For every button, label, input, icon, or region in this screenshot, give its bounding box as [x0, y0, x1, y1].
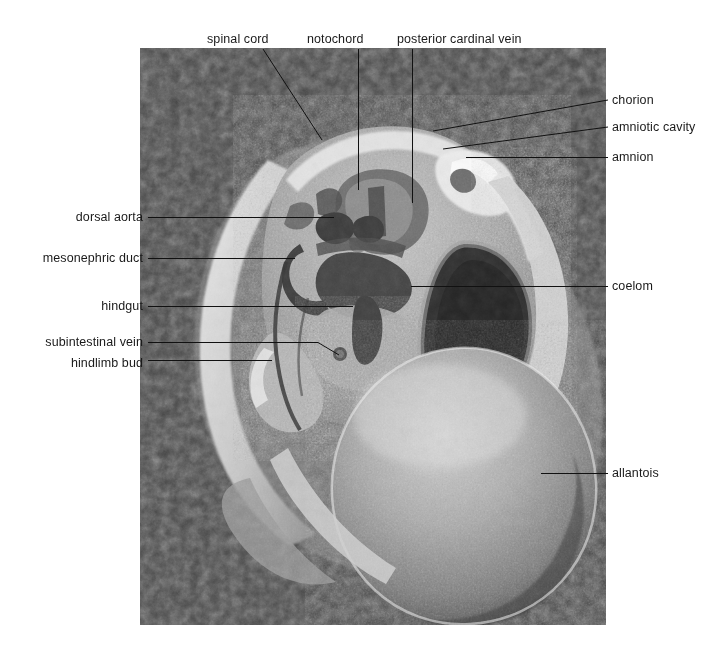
label-amnion: amnion	[612, 151, 654, 164]
label-allantois: allantois	[612, 467, 659, 480]
label-coelom: coelom	[612, 280, 653, 293]
label-hindlimb-bud: hindlimb bud	[71, 357, 143, 370]
figure-container: spinal cord notochord posterior cardinal…	[0, 0, 726, 646]
label-notochord: notochord	[307, 33, 364, 46]
label-chorion: chorion	[612, 94, 654, 107]
micrograph-svg	[140, 48, 606, 625]
label-hindgut: hindgut	[101, 300, 143, 313]
label-spinal-cord: spinal cord	[207, 33, 269, 46]
label-mesonephric-duct: mesonephric duct	[43, 252, 143, 265]
label-subintestinal-vein: subintestinal vein	[45, 336, 143, 349]
label-dorsal-aorta: dorsal aorta	[76, 211, 143, 224]
label-amniotic-cavity: amniotic cavity	[612, 121, 695, 134]
label-posterior-cardinal-vein: posterior cardinal vein	[397, 33, 522, 46]
sem-micrograph-image	[140, 48, 606, 625]
